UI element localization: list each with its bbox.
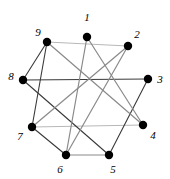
vertex-label-3: 3	[157, 74, 163, 85]
graph-edge	[23, 80, 109, 155]
graph-node	[19, 76, 27, 84]
graph-node	[28, 123, 36, 131]
graph-node	[139, 121, 147, 129]
graph-node	[144, 75, 152, 83]
vertex-label-6: 6	[57, 164, 63, 175]
graph-node	[105, 151, 113, 159]
node-layer	[19, 33, 152, 159]
graph-canvas	[0, 0, 170, 179]
graph-edge	[87, 37, 143, 125]
graph-diagram: 123456789	[0, 0, 170, 179]
vertex-label-1: 1	[84, 12, 90, 23]
graph-edge	[32, 46, 128, 127]
graph-node	[43, 38, 51, 46]
graph-edge	[109, 79, 148, 155]
graph-edge	[32, 127, 66, 155]
graph-edge	[47, 42, 128, 46]
vertex-label-5: 5	[110, 164, 116, 175]
vertex-label-4: 4	[150, 130, 156, 141]
graph-node	[124, 42, 132, 50]
graph-node	[62, 151, 70, 159]
graph-edge	[32, 125, 143, 127]
vertex-label-2: 2	[134, 29, 140, 40]
graph-edge	[47, 42, 143, 125]
graph-node	[83, 33, 91, 41]
vertex-label-7: 7	[17, 131, 23, 142]
vertex-label-8: 8	[8, 71, 14, 82]
vertex-label-9: 9	[35, 27, 41, 38]
edge-layer	[23, 37, 148, 155]
graph-edge	[23, 79, 148, 80]
